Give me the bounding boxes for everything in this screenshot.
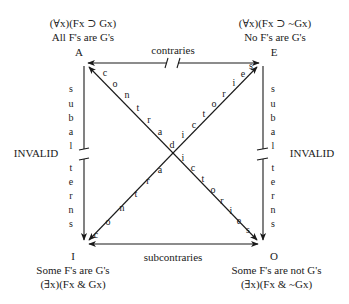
- contradictories-letter: d: [167, 140, 177, 150]
- subalterns-letter: u: [66, 99, 76, 109]
- contraries-line: [88, 58, 259, 68]
- subalterns-letter: n: [268, 205, 278, 215]
- subcontraries-label: subcontraries: [133, 251, 213, 264]
- subalterns-letter: a: [268, 127, 278, 137]
- contradictories-letter: n: [117, 203, 127, 213]
- contradictories-letter: i: [178, 153, 188, 163]
- subalterns-letter: b: [66, 113, 76, 123]
- contradictories-letter: s: [246, 61, 256, 71]
- subalterns-letter: r: [268, 191, 278, 201]
- corner-i-letter: I: [63, 250, 83, 263]
- subalterns-letter: l: [66, 141, 76, 151]
- right-subalterns-line: [257, 66, 268, 240]
- subalterns-letter: n: [66, 205, 76, 215]
- contradictories-letter: n: [122, 90, 132, 100]
- subalterns-letter: l: [268, 141, 278, 151]
- corner-e-english: No F's are G's: [225, 31, 325, 44]
- contradictories-letter: r: [143, 176, 153, 186]
- contradictories-letter: i: [178, 130, 188, 140]
- contradictories-letter: c: [188, 163, 198, 173]
- subalterns-letter: b: [268, 113, 278, 123]
- square-of-opposition-diagram: (∀x)(Fx ⊃ Gx) All F's are G's A (∀x)(Fx …: [0, 0, 349, 304]
- corner-e-letter: E: [264, 46, 284, 59]
- left-invalid-label: INVALID: [8, 147, 64, 160]
- contradictories-letter: r: [144, 115, 154, 125]
- contradictories-letter: r: [217, 196, 227, 206]
- contradictories-letter: o: [110, 79, 120, 89]
- subalterns-letter: t: [268, 163, 278, 173]
- contradictories-letter: c: [189, 120, 199, 130]
- subalterns-letter: r: [66, 191, 76, 201]
- contradictories-letter: t: [131, 189, 141, 199]
- contraries-label: contraries: [133, 44, 213, 57]
- contradictories-letter: t: [198, 174, 208, 184]
- subalterns-letter: s: [66, 219, 76, 229]
- corner-o-formula: (∃x)(Fx & ~Gx): [224, 278, 329, 291]
- contradictories-letter: t: [199, 109, 209, 119]
- contradictories-letter: t: [133, 103, 143, 113]
- contradictories-letter: i: [226, 206, 236, 216]
- subalterns-letter: s: [268, 219, 278, 229]
- subalterns-letter: a: [66, 127, 76, 137]
- contradictories-letter: o: [209, 99, 219, 109]
- contradictories-letter: o: [103, 217, 113, 227]
- subalterns-letter: u: [268, 99, 278, 109]
- left-subalterns-line: [79, 66, 89, 240]
- subalterns-letter: s: [66, 84, 76, 94]
- contradictories-letter: s: [243, 225, 253, 235]
- subalterns-letter: e: [66, 177, 76, 187]
- contradictories-letter: c: [91, 230, 101, 240]
- contradictories-letter: a: [155, 165, 165, 175]
- right-invalid-label: INVALID: [284, 147, 340, 160]
- subalterns-letter: t: [66, 163, 76, 173]
- corner-a-english: All F's are G's: [38, 31, 128, 44]
- subalterns-letter: s: [268, 84, 278, 94]
- corner-i-english: Some F's are G's: [28, 264, 118, 277]
- corner-a-formula: (∀x)(Fx ⊃ Gx): [38, 17, 128, 30]
- contradictories-letter: r: [219, 89, 229, 99]
- contradictories-letter: o: [208, 185, 218, 195]
- corner-o-english: Some F's are not G's: [224, 264, 329, 277]
- corner-e-formula: (∀x)(Fx ⊃ ~Gx): [225, 17, 325, 30]
- corner-o-letter: O: [264, 250, 284, 263]
- corner-a-letter: A: [69, 46, 89, 59]
- contradictories-letter: a: [155, 127, 165, 137]
- subalterns-letter: e: [268, 177, 278, 187]
- contradictories-letter: c: [100, 68, 110, 78]
- corner-i-formula: (∃x)(Fx & Gx): [28, 278, 118, 291]
- contradictories-letter: i: [229, 78, 239, 88]
